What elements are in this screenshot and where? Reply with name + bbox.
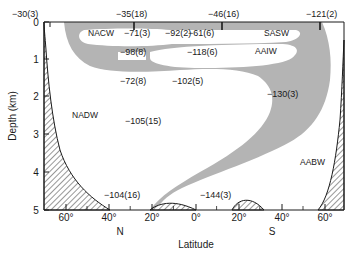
station-value: −102(5) (172, 76, 203, 86)
hemisphere-label: S (269, 226, 276, 237)
y-tick-label: 4 (33, 167, 39, 178)
x-tick-label: 60° (58, 212, 73, 223)
x-axis-title: Latitude (178, 239, 214, 250)
hemisphere-labels: NS (116, 226, 275, 237)
x-tick-label: 40° (274, 212, 289, 223)
y-tick-label: 1 (33, 54, 39, 65)
station-value: −30(3) (12, 9, 38, 19)
water-mass-label: NACW (88, 28, 114, 38)
hemisphere-label: N (116, 226, 123, 237)
y-tick-label: 3 (33, 129, 39, 140)
x-tick-label: 0° (191, 212, 201, 223)
water-mass-label: SASW (264, 28, 289, 38)
water-mass-label: AAIW (255, 46, 277, 56)
station-value: −35(18) (116, 9, 147, 19)
station-value: −130(3) (267, 89, 298, 99)
station-value: −105(15) (125, 116, 161, 126)
y-axis-title: Depth (km) (7, 91, 18, 140)
y-tick-label: 2 (33, 91, 39, 102)
ocean-section-diagram: 60°40°20°0°20°40°60° 012345 Latitude Dep… (0, 0, 355, 260)
station-value: −61(6) (188, 28, 214, 38)
water-mass-label: AABW (300, 157, 325, 167)
y-tick-label: 5 (33, 205, 39, 216)
x-tick-label: 40° (101, 212, 116, 223)
water-mass-label: NADW (72, 110, 98, 120)
station-value: −72(8) (120, 76, 146, 86)
x-tick-label: 20° (144, 212, 159, 223)
station-value: −104(16) (104, 190, 140, 200)
station-value: −118(6) (187, 47, 218, 57)
x-tick-label: 20° (231, 212, 246, 223)
x-tick-label: 60° (317, 212, 332, 223)
station-value: −98(8) (120, 47, 146, 57)
station-value: −46(16) (208, 9, 239, 19)
station-value: −71(3) (124, 28, 150, 38)
station-value: −144(3) (200, 190, 231, 200)
station-value: −121(2) (306, 9, 337, 19)
